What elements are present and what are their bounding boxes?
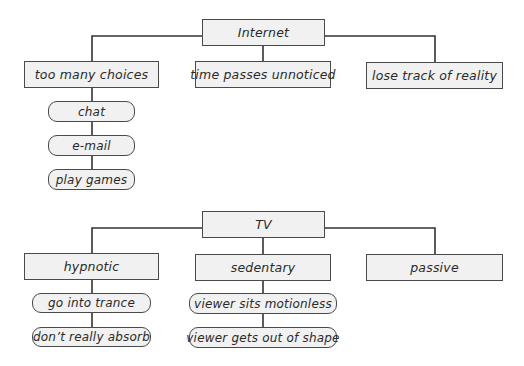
concept-diagram: Internet too many choices time passes un… xyxy=(0,0,524,366)
root-node-tv: TV xyxy=(202,211,325,238)
item-play-games: play games xyxy=(48,169,135,190)
node-hypnotic: hypnotic xyxy=(24,253,159,280)
node-too-many-choices: too many choices xyxy=(24,61,159,88)
item-email: e-mail xyxy=(48,135,135,156)
item-chat: chat xyxy=(48,101,135,122)
node-passive: passive xyxy=(366,254,503,281)
node-time-passes-unnoticed: time passes unnoticed xyxy=(195,61,331,88)
item-viewer-sits-motionless: viewer sits motionless xyxy=(189,293,337,314)
item-dont-really-absorb: don’t really absorb xyxy=(32,327,151,347)
item-go-into-trance: go into trance xyxy=(32,293,151,313)
node-lose-track-of-reality: lose track of reality xyxy=(366,62,503,89)
node-sedentary: sedentary xyxy=(195,254,331,281)
item-viewer-gets-out-of-shape: viewer gets out of shape xyxy=(189,327,337,348)
root-node-internet: Internet xyxy=(202,19,325,46)
